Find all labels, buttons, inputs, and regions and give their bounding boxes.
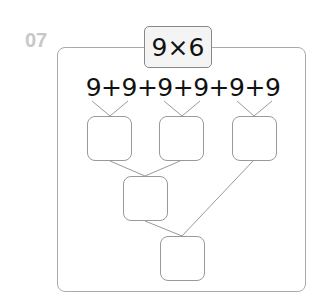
answer-box-pair3[interactable] (232, 116, 277, 161)
answer-box-pair2[interactable] (159, 116, 204, 161)
title-box: 9×6 (144, 26, 212, 68)
addition-expression: 9+9+9+9+9+9 (70, 73, 296, 102)
answer-box-pair1[interactable] (87, 116, 132, 161)
answer-box-sum12[interactable] (123, 176, 168, 221)
answer-box-total[interactable] (160, 236, 205, 281)
